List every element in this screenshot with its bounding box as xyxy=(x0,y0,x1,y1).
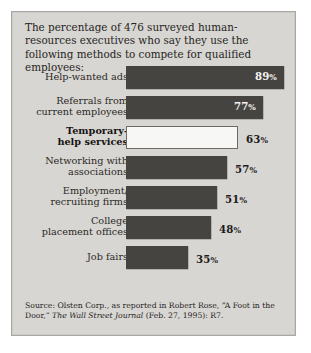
bar-value-percent-sign: % xyxy=(260,136,268,145)
bar-row: Help-wanted ads89% xyxy=(12,63,297,93)
bar-category-label: Networking withassociations xyxy=(24,155,128,178)
source-publication: The Wall Street Journal xyxy=(52,311,143,320)
source-note: Source: Olsten Corp., as reported in Rob… xyxy=(25,301,287,321)
bar-category-label-line1: Temporary- xyxy=(24,125,128,136)
bar-row: Temporary-help services63% xyxy=(12,123,297,153)
bar-category-label: Job fairs xyxy=(24,251,128,262)
bar-value-number: 63 xyxy=(246,133,260,145)
bar-chart-plot: Help-wanted ads89%Referrals fromcurrent … xyxy=(12,63,297,273)
bar xyxy=(126,156,227,179)
bar-category-label: Employment/recruiting firms xyxy=(24,185,128,208)
bar xyxy=(126,216,211,239)
bar-value-number: 48 xyxy=(219,223,233,235)
bar-value-percent-sign: % xyxy=(248,103,256,112)
bar-value-percent-sign: % xyxy=(210,256,218,265)
bar-category-label: Temporary-help services xyxy=(24,125,128,148)
bar-value-label: 51% xyxy=(225,193,247,205)
bar-row: Employment/recruiting firms51% xyxy=(12,183,297,213)
bar-value-number: 77 xyxy=(234,100,248,112)
bar-track: 89% xyxy=(126,66,297,89)
bar-track: 35% xyxy=(126,246,297,269)
bar-track: 57% xyxy=(126,156,297,179)
bar-value-label: 89% xyxy=(255,70,277,82)
bar-track: 48% xyxy=(126,216,297,239)
bar-row: Networking withassociations57% xyxy=(12,153,297,183)
bar-category-label-line1: Job fairs xyxy=(24,251,128,262)
bar-value-label: 48% xyxy=(219,223,241,235)
bar-category-label: Help-wanted ads xyxy=(24,71,128,82)
bar-category-label-line2: current employees xyxy=(24,106,128,117)
chart-figure: The percentage of 476 surveyed human-res… xyxy=(11,11,296,336)
bar xyxy=(126,126,238,149)
bar-row: Job fairs35% xyxy=(12,243,297,273)
bar-value-number: 57 xyxy=(235,163,249,175)
bar-value-percent-sign: % xyxy=(249,166,257,175)
bar-value-percent-sign: % xyxy=(269,73,277,82)
bar: 89% xyxy=(126,66,284,89)
bar-track: 77% xyxy=(126,96,297,119)
source-trailing: (Feb. 27, 1995): R7. xyxy=(143,311,223,320)
bar-category-label-line2: help services xyxy=(24,136,128,147)
bar-value-number: 35 xyxy=(196,253,210,265)
bar-value-label: 77% xyxy=(234,100,256,112)
bar-category-label-line2: associations xyxy=(24,166,128,177)
bar-value-label: 57% xyxy=(235,163,257,175)
bar-value-number: 89 xyxy=(255,70,269,82)
bar-value-label: 63% xyxy=(246,133,268,145)
bar-category-label-line1: Help-wanted ads xyxy=(24,71,128,82)
bar-track: 51% xyxy=(126,186,297,209)
bar-category-label-line1: College xyxy=(24,215,128,226)
bar-category-label-line2: recruiting firms xyxy=(24,196,128,207)
bar xyxy=(126,246,188,269)
bar-category-label-line1: Employment/ xyxy=(24,185,128,196)
bar-category-label-line2: placement offices xyxy=(24,226,128,237)
bar-track: 63% xyxy=(126,126,297,149)
bar-value-percent-sign: % xyxy=(239,196,247,205)
bar-category-label: Referrals fromcurrent employees xyxy=(24,95,128,118)
bar xyxy=(126,186,217,209)
bar-category-label-line1: Referrals from xyxy=(24,95,128,106)
bar-value-number: 51 xyxy=(225,193,239,205)
bar-category-label: Collegeplacement offices xyxy=(24,215,128,238)
bar: 77% xyxy=(126,96,263,119)
bar-row: Referrals fromcurrent employees77% xyxy=(12,93,297,123)
bar-value-percent-sign: % xyxy=(233,226,241,235)
bar-row: Collegeplacement offices48% xyxy=(12,213,297,243)
bar-value-label: 35% xyxy=(196,253,218,265)
bar-category-label-line1: Networking with xyxy=(24,155,128,166)
